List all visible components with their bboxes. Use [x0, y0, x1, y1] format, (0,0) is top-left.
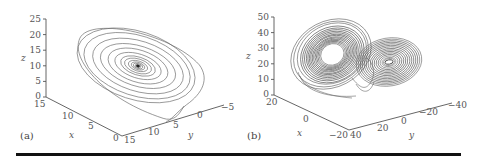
svg-text:−40: −40	[448, 100, 467, 110]
z-ticks-a: 25 20 15 10 5 0	[30, 14, 46, 101]
svg-text:15: 15	[124, 135, 136, 145]
x-axis-a	[46, 97, 122, 136]
bottom-rule	[16, 153, 461, 156]
svg-text:20: 20	[30, 30, 42, 40]
svg-text:20: 20	[266, 97, 278, 107]
z-axis-label-b: z	[245, 51, 251, 61]
x-axis-label-a: x	[69, 130, 74, 140]
svg-text:20: 20	[377, 123, 389, 133]
x-ticks-b: 20 0 −20	[266, 97, 348, 140]
svg-text:5: 5	[35, 76, 41, 86]
svg-text:−20: −20	[329, 130, 348, 140]
svg-text:5: 5	[173, 120, 179, 130]
y-axis-label-b: y	[408, 130, 415, 140]
y-axis-label-a: y	[187, 130, 194, 140]
svg-text:0: 0	[197, 110, 203, 120]
panel-a: 25 20 15 10 5 0 z 15 10 5 0 x 15 10 5 0 …	[20, 14, 235, 145]
svg-text:40: 40	[258, 28, 270, 38]
y-ticks-a: 15 10 5 0 −5	[124, 102, 235, 145]
svg-text:0: 0	[113, 133, 119, 143]
svg-text:10: 10	[62, 111, 74, 121]
attractor-trajectory-b	[278, 5, 425, 103]
svg-text:−20: −20	[419, 107, 438, 117]
svg-text:25: 25	[30, 14, 42, 24]
svg-text:10: 10	[148, 127, 160, 137]
svg-text:0: 0	[303, 114, 309, 124]
x-axis-label-b: x	[297, 128, 302, 138]
svg-text:15: 15	[34, 99, 46, 109]
svg-text:0: 0	[401, 116, 407, 126]
svg-text:5: 5	[88, 121, 94, 131]
svg-text:20: 20	[258, 59, 270, 69]
svg-text:10: 10	[30, 61, 42, 71]
panel-label-b: (b)	[247, 130, 261, 141]
figure: 25 20 15 10 5 0 z 15 10 5 0 x 15 10 5 0 …	[0, 0, 481, 157]
z-axis-label-a: z	[20, 53, 26, 63]
svg-text:15: 15	[30, 45, 42, 55]
svg-text:10: 10	[258, 74, 270, 84]
x-ticks-a: 15 10 5 0	[34, 99, 119, 143]
spiral-trajectory-a	[64, 14, 213, 129]
svg-text:40: 40	[350, 130, 362, 140]
svg-text:50: 50	[258, 12, 270, 22]
svg-text:30: 30	[258, 43, 270, 53]
panel-b: 50 40 30 20 10 0 z 20 0 −20 x 40 20 0 −2…	[245, 5, 467, 141]
panel-label-a: (a)	[20, 130, 34, 141]
z-ticks-b: 50 40 30 20 10 0	[258, 12, 274, 99]
x-axis-b	[274, 95, 349, 130]
svg-text:−5: −5	[221, 102, 235, 112]
